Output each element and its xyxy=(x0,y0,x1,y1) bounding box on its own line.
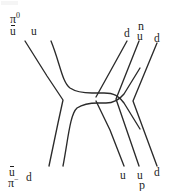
line-d-bent xyxy=(133,43,157,166)
line-u-bent xyxy=(116,41,139,166)
label-pi-minus-charge: − xyxy=(14,175,19,184)
label-d-proton: d xyxy=(154,167,160,179)
line-down-from-piminus xyxy=(63,68,140,166)
label-d-neutron-inner: d xyxy=(154,33,160,45)
label-antiup-pi0-text: u xyxy=(10,26,16,38)
label-proton: p xyxy=(139,179,145,191)
label-up-pi0: u xyxy=(31,26,37,38)
label-pi-zero-charge: 0 xyxy=(16,11,20,20)
quark-line-diagram: π0 u u u π− d d n u d u u p d xyxy=(0,0,172,191)
label-up-pi0-text: u xyxy=(31,25,37,37)
label-u-neutron-text: u xyxy=(137,30,143,42)
label-u-proton-outer: u xyxy=(120,170,126,182)
line-d-neutron-outer xyxy=(96,41,127,97)
label-d-neutron-inner-text: d xyxy=(154,32,160,44)
quark-flow-svg xyxy=(0,0,172,191)
label-pi-minus: π− xyxy=(8,177,19,189)
label-antiup-pi0: u xyxy=(10,26,16,38)
label-d-neutron-outer-text: d xyxy=(124,27,130,39)
label-u-neutron: u xyxy=(137,31,143,43)
label-d-proton-text: d xyxy=(154,166,160,178)
label-down-piminus: d xyxy=(26,172,32,184)
line-up-from-pi0 xyxy=(51,41,140,129)
label-proton-text: p xyxy=(139,178,145,191)
label-u-proton-outer-text: u xyxy=(120,169,126,181)
label-down-piminus-text: d xyxy=(26,171,32,183)
label-pi-zero: π0 xyxy=(10,13,20,25)
label-d-neutron-outer: d xyxy=(124,28,130,40)
